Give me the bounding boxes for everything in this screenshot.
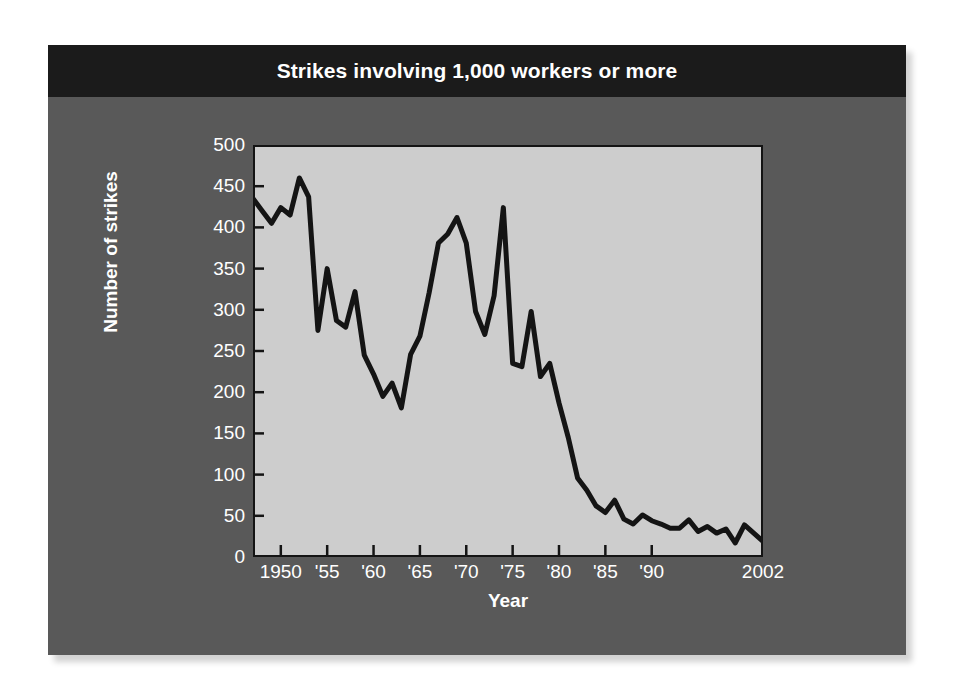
y-axis-tick-label: 150 bbox=[191, 423, 245, 442]
x-axis-ticks bbox=[281, 545, 652, 557]
y-axis-tick-label: 50 bbox=[191, 506, 245, 525]
y-axis-tick-label: 100 bbox=[191, 465, 245, 484]
x-axis-tick-label: '65 bbox=[408, 561, 433, 583]
x-axis-tick-label: 2002 bbox=[742, 561, 784, 583]
x-axis-tick-labels: 1950'55'60'65'70'75'80'85'902002 bbox=[253, 561, 813, 587]
x-axis-tick-label: '85 bbox=[593, 561, 618, 583]
plot-wrapper bbox=[253, 145, 763, 557]
x-axis-tick-label: '75 bbox=[500, 561, 525, 583]
y-axis-tick-label: 250 bbox=[191, 341, 245, 360]
y-axis-tick-label: 450 bbox=[191, 176, 245, 195]
y-axis-tick-label: 0 bbox=[191, 547, 245, 566]
y-axis-ticks bbox=[253, 186, 264, 516]
x-axis-tick-label: '55 bbox=[315, 561, 340, 583]
line-chart-svg bbox=[253, 145, 763, 557]
data-series-line bbox=[253, 178, 763, 543]
chart-title-band: Strikes involving 1,000 workers or more bbox=[48, 45, 906, 97]
x-axis-tick-label: '70 bbox=[454, 561, 479, 583]
y-axis-tick-label: 400 bbox=[191, 217, 245, 236]
y-axis-tick-label: 300 bbox=[191, 300, 245, 319]
y-axis-tick-labels: 500450400350300250200150100500 bbox=[187, 145, 245, 557]
y-axis-tick-label: 350 bbox=[191, 259, 245, 278]
y-axis-title: Number of strikes bbox=[100, 137, 122, 367]
x-axis-tick-label: '90 bbox=[639, 561, 664, 583]
page-title: Strikes involving 1,000 workers or more bbox=[277, 59, 678, 83]
y-axis-tick-label: 500 bbox=[191, 135, 245, 154]
chart-figure: Strikes involving 1,000 workers or more … bbox=[48, 45, 906, 655]
x-axis-tick-label: '80 bbox=[547, 561, 572, 583]
x-axis-tick-label: 1950 bbox=[260, 561, 302, 583]
x-axis-title: Year bbox=[253, 590, 763, 612]
x-axis-tick-label: '60 bbox=[361, 561, 386, 583]
y-axis-tick-label: 200 bbox=[191, 382, 245, 401]
